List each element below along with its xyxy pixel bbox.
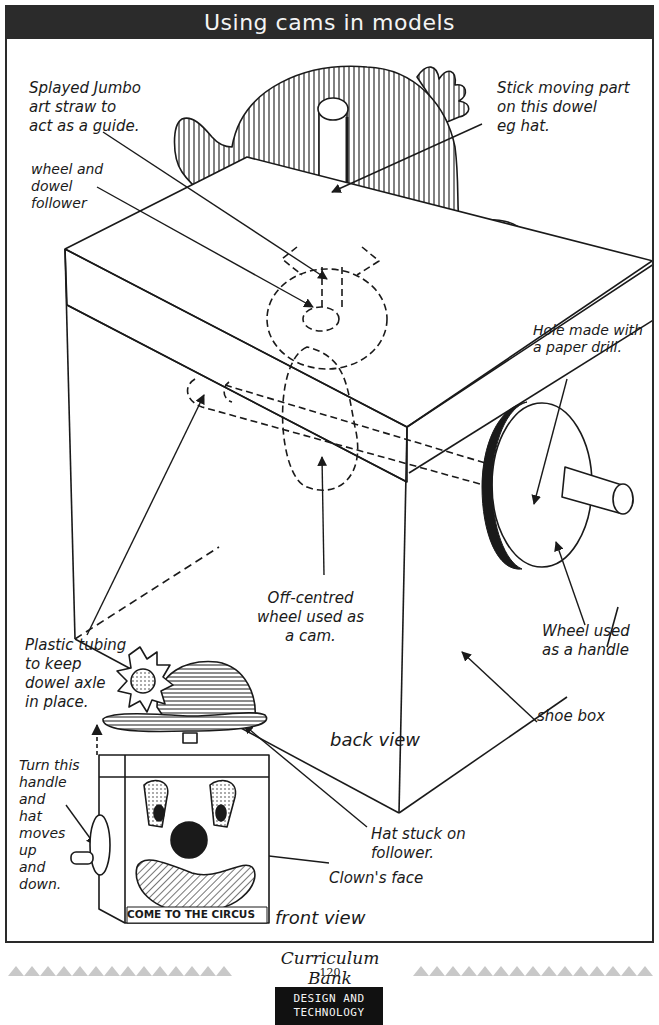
- label-turn-handle: Turn this handle and hat moves up and do…: [19, 757, 80, 893]
- label-shoe-box: shoe box: [537, 707, 605, 726]
- label-clowns-face: Clown's face: [329, 869, 423, 888]
- label-hole-drill: Hole made with a paper drill.: [533, 322, 643, 356]
- page-title: Using cams in models: [7, 7, 652, 39]
- label-wheel-follower: wheel and dowel follower: [31, 161, 103, 212]
- subject-badge: DESIGN AND TECHNOLOGY: [275, 987, 383, 1025]
- illustration: Splayed Jumbo art straw to act as a guid…: [7, 39, 652, 941]
- front-view-box: [71, 725, 269, 923]
- decorative-triangles-left: [8, 964, 240, 976]
- worksheet-frame: Using cams in models: [5, 5, 654, 943]
- handle-wheel-icon: [482, 402, 633, 569]
- label-front-view: front view: [275, 907, 365, 928]
- cam-model-diagram: [7, 39, 652, 941]
- label-wheel-handle: Wheel used as a handle: [542, 622, 630, 660]
- circus-sign: COME TO THE CIRCUS: [121, 908, 261, 920]
- decorative-triangles-right: [413, 964, 653, 976]
- label-hat-stuck: Hat stuck on follower.: [371, 825, 466, 863]
- label-straw-guide: Splayed Jumbo art straw to act as a guid…: [29, 79, 141, 136]
- label-off-centred-cam: Off-centred wheel used as a cam.: [257, 589, 364, 646]
- label-plastic-tubing: Plastic tubing to keep dowel axle in pla…: [25, 636, 126, 712]
- label-stick-part: Stick moving part on this dowel eg hat.: [497, 79, 630, 136]
- label-back-view: back view: [330, 729, 420, 750]
- page-number: 120: [300, 966, 360, 979]
